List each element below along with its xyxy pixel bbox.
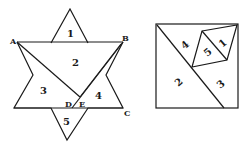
square-piece-1: 1 bbox=[216, 37, 228, 50]
star-piece-4: 4 bbox=[95, 90, 102, 101]
star-piece-5: 5 bbox=[63, 116, 70, 127]
dissection-figure: A B C D E 1 2 3 4 5 4 1 5 2 3 bbox=[0, 0, 251, 151]
star-piece-1: 1 bbox=[67, 28, 74, 39]
star-piece-3: 3 bbox=[40, 85, 47, 96]
star-figure: A B C D E 1 2 3 4 5 bbox=[9, 9, 130, 140]
square-diagonal-cut bbox=[157, 25, 224, 108]
square-piece-2: 2 bbox=[172, 76, 184, 89]
point-label-c: C bbox=[124, 108, 130, 118]
square-piece-4: 4 bbox=[179, 38, 191, 51]
cut-line-ae bbox=[17, 42, 80, 97]
point-label-e: E bbox=[79, 99, 85, 109]
square-piece-3: 3 bbox=[214, 78, 226, 91]
square-figure: 4 1 5 2 3 bbox=[156, 24, 238, 108]
star-piece-2: 2 bbox=[72, 57, 79, 68]
point-label-b: B bbox=[122, 33, 129, 43]
point-label-d: D bbox=[65, 99, 72, 109]
square-piece-5: 5 bbox=[201, 46, 213, 59]
point-label-a: A bbox=[9, 36, 17, 46]
